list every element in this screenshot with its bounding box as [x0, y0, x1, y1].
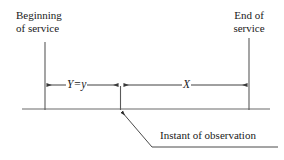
- segment-y-label: Y=y: [66, 78, 87, 90]
- instant-of-observation-label: Instant of observation: [160, 129, 256, 142]
- beginning-of-service-label: Beginning of service: [16, 9, 62, 34]
- segment-x-label: X: [182, 78, 191, 90]
- end-of-service-label: End of service: [204, 9, 284, 34]
- figure-container: Beginning of service End of service Y=y …: [0, 0, 284, 160]
